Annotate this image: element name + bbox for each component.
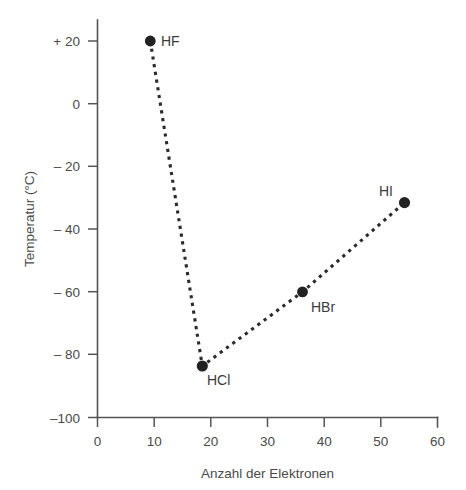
- y-axis-ticks: [88, 41, 98, 418]
- y-tick-label-neg80: – 80: [54, 347, 80, 362]
- data-label-hi: HI: [379, 183, 393, 199]
- x-tick-label-20: 20: [203, 434, 218, 449]
- y-tick-label-neg40: – 40: [54, 222, 80, 237]
- series-line-halogen-hydrides: [150, 41, 404, 366]
- x-tick-label-60: 60: [430, 434, 445, 449]
- x-tick-label-30: 30: [260, 434, 275, 449]
- data-label-hcl: HCl: [207, 372, 230, 388]
- data-point-hf: [145, 36, 156, 47]
- y-tick-label-neg100: –100: [50, 411, 80, 426]
- x-axis-title: Anzahl der Elektronen: [201, 466, 334, 481]
- y-axis-title: Temperatur (°C): [22, 171, 37, 267]
- axes-group: [98, 20, 438, 427]
- data-series-group: [145, 36, 410, 372]
- y-tick-label-0: 0: [72, 97, 80, 112]
- x-axis-tick-labels: 0 10 20 30 40 50 60: [94, 434, 445, 449]
- y-axis-tick-labels: + 20 0 – 20 – 40 – 60 – 80 –100: [50, 34, 80, 426]
- y-tick-label-neg20: – 20: [54, 159, 80, 174]
- y-tick-label-neg60: – 60: [54, 285, 80, 300]
- x-axis-ticks: [98, 418, 381, 428]
- data-point-hi: [399, 197, 410, 208]
- boiling-point-scatter-chart: + 20 0 – 20 – 40 – 60 – 80 –100 0 10 20 …: [0, 0, 466, 490]
- x-tick-label-50: 50: [373, 434, 388, 449]
- x-tick-label-40: 40: [317, 434, 332, 449]
- x-tick-label-0: 0: [94, 434, 102, 449]
- x-tick-label-10: 10: [147, 434, 162, 449]
- data-label-hf: HF: [161, 33, 180, 49]
- data-point-hcl: [197, 360, 208, 371]
- data-label-hbr: HBr: [311, 299, 335, 315]
- chart-figure: + 20 0 – 20 – 40 – 60 – 80 –100 0 10 20 …: [0, 0, 466, 490]
- data-point-hbr: [297, 287, 308, 298]
- y-tick-label-20: + 20: [53, 34, 80, 49]
